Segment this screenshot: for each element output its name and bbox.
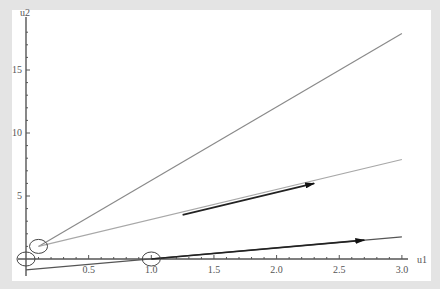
x-tick-label: 3.0: [396, 264, 409, 275]
y-ticks: 51015: [12, 32, 30, 246]
y-tick-label: 5: [17, 190, 22, 201]
x-tick-label: 2.5: [333, 264, 346, 275]
circle-markers: [17, 239, 160, 266]
arrows: [151, 183, 364, 259]
x-tick-label: 2.0: [270, 264, 283, 275]
y-tick-label: 10: [12, 127, 22, 138]
vector-arrow: [151, 240, 364, 259]
x-ticks: 0.51.01.52.02.53.0: [39, 255, 409, 275]
x-tick-label: 0.5: [82, 264, 95, 275]
chart-svg: 0.51.01.52.02.53.0 51015 u2 u1: [0, 0, 440, 289]
x-tick-label: 1.5: [208, 264, 221, 275]
series-line-middle: [39, 159, 402, 246]
series-lines: [26, 33, 402, 270]
series-line-steep: [39, 33, 402, 246]
x-axis-label: u1: [417, 254, 427, 265]
y-axis-label: u2: [20, 7, 30, 18]
vector-arrow: [183, 183, 315, 215]
y-tick-label: 15: [12, 64, 22, 75]
